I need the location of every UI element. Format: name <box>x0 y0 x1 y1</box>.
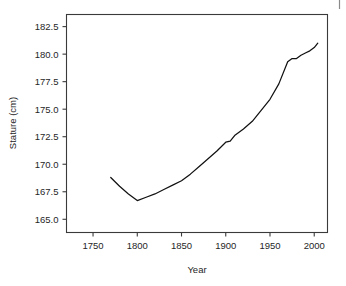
x-tick-label: 1850 <box>171 240 192 251</box>
y-tick-label: 182.5 <box>35 21 59 32</box>
x-tick-label: 1950 <box>259 240 280 251</box>
y-tick-label: 170.0 <box>35 159 59 170</box>
chart-svg: 165.0167.5170.0172.5175.0177.5180.0182.5… <box>0 0 346 286</box>
y-tick-label: 177.5 <box>35 76 59 87</box>
x-axis-title: Year <box>187 264 206 275</box>
y-tick-label: 167.5 <box>35 186 59 197</box>
y-tick-label: 165.0 <box>35 214 59 225</box>
y-tick-label: 172.5 <box>35 131 59 142</box>
x-tick-label: 1750 <box>82 240 103 251</box>
x-tick-label: 2000 <box>304 240 325 251</box>
y-tick-label: 175.0 <box>35 104 59 115</box>
stature-line-chart-figure: 165.0167.5170.0172.5175.0177.5180.0182.5… <box>0 0 346 286</box>
x-tick-label: 1800 <box>127 240 148 251</box>
x-tick-label: 1900 <box>215 240 236 251</box>
y-axis-title: Stature (cm) <box>7 97 18 149</box>
y-tick-label: 180.0 <box>35 49 59 60</box>
